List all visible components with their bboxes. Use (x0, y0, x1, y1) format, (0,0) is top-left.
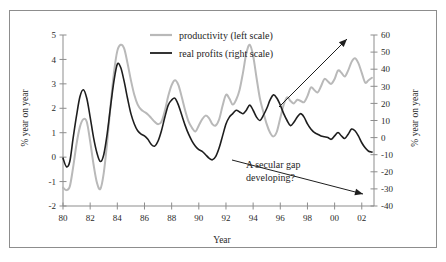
y-axis-right-tick-label: -20 (381, 167, 393, 177)
y-axis-right-tick-label: 20 (381, 99, 391, 109)
chart-plot-area: -2-1012345 -40-30-20-100102030405060 808… (0, 0, 446, 262)
x-axis-tick-label: 82 (86, 213, 95, 223)
chart-figure: -2-1012345 -40-30-20-100102030405060 808… (0, 0, 446, 262)
annotation-arrow-head-secular-gap (354, 189, 363, 196)
y-axis-right-tick-label: -40 (381, 201, 393, 211)
y-axis-left-title: % year on year (20, 89, 30, 147)
legend-label-1: real profits (right scale) (179, 48, 273, 60)
data-series-group (63, 45, 372, 190)
y-axis-left-tick-label: 5 (52, 30, 57, 40)
y-axis-right-title: % year on year (410, 89, 420, 147)
y-axis-right-tick-label: 30 (381, 82, 391, 92)
y-axis-left: -2-1012345 (49, 30, 67, 211)
x-axis-tick-label: 84 (113, 213, 123, 223)
x-axis-tick-label: 80 (59, 213, 69, 223)
annotation-text-secular-gap: A secular gap (246, 159, 300, 170)
y-axis-right-tick-label: -10 (381, 150, 393, 160)
x-axis-tick-label: 90 (194, 213, 204, 223)
x-axis-tick-label: 86 (140, 213, 150, 223)
x-axis-tick-label: 88 (167, 213, 177, 223)
y-axis-left-tick-label: -1 (49, 177, 57, 187)
y-axis-right-tick-label: 0 (381, 133, 386, 143)
x-axis-tick-label: 92 (221, 213, 230, 223)
annotation-text-secular-gap: developing? (246, 172, 295, 183)
y-axis-left-tick-label: 3 (52, 79, 57, 89)
y-axis-right: -40-30-20-100102030405060 (371, 30, 394, 211)
y-axis-left-tick-label: 2 (52, 103, 57, 113)
x-axis-tick-label: 96 (276, 213, 286, 223)
x-axis-title: Year (213, 235, 231, 245)
y-axis-right-tick-label: 10 (381, 116, 391, 126)
x-axis-tick-label: 02 (357, 213, 366, 223)
y-axis-right-tick-label: 60 (381, 30, 391, 40)
y-axis-right-tick-label: -30 (381, 184, 393, 194)
x-axis-tick-label: 98 (303, 213, 313, 223)
y-axis-right-tick-label: 50 (381, 47, 391, 57)
y-axis-left-tick-label: 1 (52, 128, 57, 138)
y-axis-left-tick-label: -2 (49, 201, 57, 211)
y-axis-right-tick-label: 40 (381, 64, 391, 74)
y-axis-left-tick-label: 0 (52, 152, 57, 162)
legend-label-0: productivity (left scale) (179, 30, 273, 42)
chart-legend: productivity (left scale)real profits (r… (150, 30, 273, 60)
x-axis: 808284868890929496980002 (59, 203, 375, 224)
x-axis-tick-label: 00 (330, 213, 340, 223)
y-axis-left-tick-label: 4 (52, 55, 57, 65)
x-axis-tick-label: 94 (249, 213, 259, 223)
